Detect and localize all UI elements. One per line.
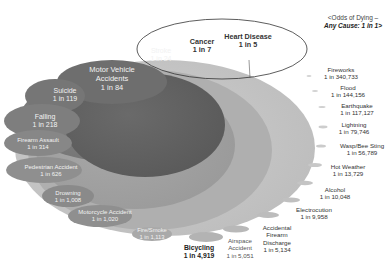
label-odds: 1 in 24 <box>150 55 171 63</box>
label-odds: 1 in 218 <box>33 121 58 129</box>
label-odds: 1 in 56,789 <box>340 149 384 156</box>
label-name: Hot Weather <box>331 163 366 170</box>
label-stroke: Stroke 1 in 24 <box>150 47 171 63</box>
label-name: Fireworks <box>324 66 358 73</box>
dot-lightning <box>319 126 328 129</box>
label-name: Fire/Smoke <box>137 227 167 234</box>
dot-hotweather <box>308 163 322 167</box>
label-odds: 1 in 1,020 <box>78 216 131 223</box>
label-odds: 1 in 79,746 <box>339 128 370 135</box>
label-hot-weather: Hot Weather 1 in 13,729 <box>331 163 366 178</box>
dot-earthquake <box>319 106 326 108</box>
label-motorcycle: Motorcycle Accident 1 in 1,020 <box>78 209 131 223</box>
label-name: Accident <box>226 244 253 251</box>
label-accidental-firearm: Accidental Firearm Discharge 1 in 5,134 <box>263 224 292 254</box>
label-odds: 1 in 5,134 <box>263 246 292 253</box>
dot-bicycling <box>189 232 223 242</box>
dot-wasp <box>316 144 326 147</box>
any-cause-note: <Odds of Dying – Any Cause: 1 in 1> <box>324 14 382 30</box>
label-name: Electrocution <box>296 206 332 213</box>
label-name: Firearm Assault <box>17 137 59 144</box>
label-odds: 1 in 119 <box>53 95 77 103</box>
label-name: Accidents <box>89 74 134 83</box>
label-odds: 1 in 340,733 <box>324 73 358 80</box>
label-name: Firearm <box>263 231 292 238</box>
label-name: Alcohol <box>320 186 351 193</box>
label-alcohol: Alcohol 1 in 10,048 <box>320 186 351 201</box>
label-name: Suicide <box>53 87 77 95</box>
label-airspace: Airspace Accident 1 in 5,051 <box>226 237 253 259</box>
label-earthquake: Earthquake 1 in 117,127 <box>340 102 374 117</box>
label-odds: 1 in 117,127 <box>340 109 374 116</box>
label-odds: 1 in 13,729 <box>331 170 366 177</box>
label-name: Lightning <box>339 121 370 128</box>
label-odds: 1 in 9,958 <box>296 213 332 220</box>
label-electrocution: Electrocution 1 in 9,958 <box>296 206 332 221</box>
label-heart-disease: Heart Disease 1 in 5 <box>224 33 272 49</box>
label-name: Flood <box>331 84 365 91</box>
label-pedestrian: Pedestrian Accident 1 in 626 <box>24 164 77 178</box>
label-odds: 1 in 314 <box>17 144 59 151</box>
label-odds: 1 in 626 <box>24 171 77 178</box>
label-odds: 1 in 84 <box>89 83 134 92</box>
label-odds: 1 in 1,113 <box>137 234 167 241</box>
label-name: Pedestrian Accident <box>24 164 77 171</box>
label-odds: 1 in 7 <box>190 46 214 54</box>
label-odds: 1 in 10,048 <box>320 193 351 200</box>
label-wasp-bee: Wasp/Bee Sting 1 in 56,789 <box>340 142 384 157</box>
label-name: Motor Vehicle <box>89 65 134 74</box>
label-odds: 1 in 5 <box>224 41 272 49</box>
label-name: Drowning <box>55 190 81 197</box>
label-name: Stroke <box>150 47 171 55</box>
note-line2: Any Cause: 1 in 1> <box>324 22 382 30</box>
dot-firearm <box>257 212 279 218</box>
dot-flood <box>312 90 318 92</box>
dot-electrocution <box>282 198 300 203</box>
label-name: Airspace <box>226 237 253 244</box>
label-cancer: Cancer 1 in 7 <box>190 38 214 54</box>
label-name: Bicycling <box>184 244 215 252</box>
note-line1: <Odds of Dying – <box>324 14 382 22</box>
label-odds: 1 in 1,008 <box>55 197 81 204</box>
label-name: Accidental <box>263 224 292 231</box>
label-drowning: Drowning 1 in 1,008 <box>55 190 81 204</box>
label-falling: Falling 1 in 218 <box>33 113 58 129</box>
label-fire-smoke: Fire/Smoke 1 in 1,113 <box>137 227 167 241</box>
label-motor-vehicle: Motor Vehicle Accidents 1 in 84 <box>89 65 134 92</box>
label-firearm-assault: Firearm Assault 1 in 314 <box>17 137 59 151</box>
label-odds: 1 in 144,156 <box>331 91 365 98</box>
label-odds: 1 in 5,051 <box>226 252 253 259</box>
dot-fireworks <box>307 75 312 77</box>
label-name: Wasp/Bee Sting <box>340 142 384 149</box>
dot-airspace <box>223 226 249 233</box>
label-name: Motorcycle Accident <box>78 209 131 216</box>
dot-alcohol <box>297 181 313 185</box>
label-flood: Flood 1 in 144,156 <box>331 84 365 99</box>
label-lightning: Lightning 1 in 79,746 <box>339 121 370 136</box>
label-odds: 1 in 4,919 <box>184 252 215 260</box>
label-name: Falling <box>33 113 58 121</box>
label-bicycling: Bicycling 1 in 4,919 <box>184 244 215 260</box>
label-name: Discharge <box>263 239 292 246</box>
label-name: Earthquake <box>340 102 374 109</box>
label-suicide: Suicide 1 in 119 <box>53 87 77 103</box>
label-fireworks: Fireworks 1 in 340,733 <box>324 66 358 81</box>
